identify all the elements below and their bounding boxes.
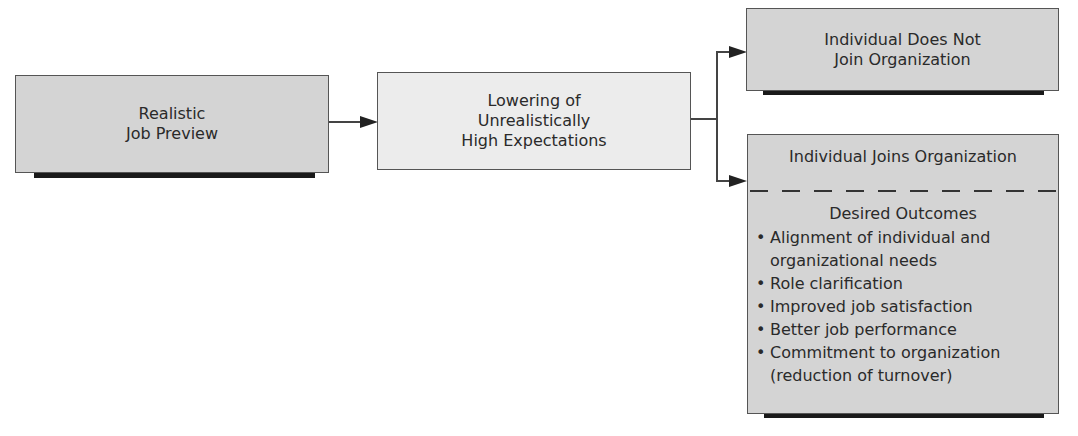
realistic-job-preview-box: Realistic Job Preview <box>15 75 329 173</box>
realistic-job-preview-shadow <box>34 173 315 178</box>
connector-preview-to-lowering <box>329 121 361 123</box>
connector-branch-top <box>716 51 730 53</box>
lowering-expectations-line-3: High Expectations <box>461 131 606 151</box>
connector-branch-bottom <box>716 180 730 182</box>
outcome-item: Role clarification <box>756 272 1054 295</box>
outcome-item: Alignment of individual and organization… <box>756 226 1054 272</box>
lowering-expectations-line-1: Lowering of <box>487 91 580 111</box>
does-not-join-line-1: Individual Does Not <box>824 30 980 50</box>
lowering-expectations-line-2: Unrealistically <box>478 111 591 131</box>
lowering-expectations-box: Lowering of Unrealistically High Expecta… <box>377 72 691 170</box>
desired-outcomes-title: Desired Outcomes <box>748 204 1058 223</box>
arrowhead-icon <box>729 46 747 58</box>
joins-box: Individual Joins Organization Desired Ou… <box>747 134 1059 414</box>
desired-outcomes-list: Alignment of individual and organization… <box>756 226 1054 387</box>
arrowhead-icon <box>360 116 378 128</box>
connector-branch-vertical <box>716 51 718 181</box>
joins-title: Individual Joins Organization <box>748 147 1058 166</box>
connector-lowering-branch <box>691 118 718 120</box>
outcome-item: Improved job satisfaction <box>756 295 1054 318</box>
does-not-join-line-2: Join Organization <box>834 50 970 70</box>
realistic-job-preview-line-1: Realistic <box>139 104 206 124</box>
does-not-join-box: Individual Does Not Join Organization <box>746 8 1059 91</box>
outcome-item: Better job performance <box>756 318 1054 341</box>
arrowhead-icon <box>729 175 747 187</box>
outcome-item: Commitment to organization (reduction of… <box>756 341 1054 387</box>
realistic-job-preview-line-2: Job Preview <box>126 124 218 144</box>
dashed-divider <box>750 190 1056 192</box>
